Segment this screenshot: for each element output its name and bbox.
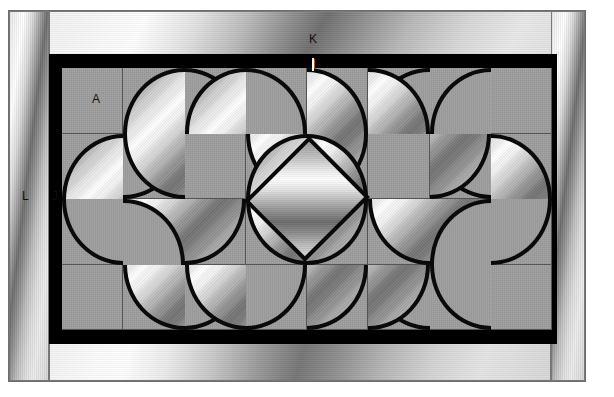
- tile: [185, 68, 246, 134]
- petal-lobe: [123, 68, 184, 134]
- tile: [368, 265, 429, 331]
- tile: [62, 199, 123, 265]
- tile: [307, 68, 368, 134]
- patent-figure: AIJKL: [0, 0, 614, 397]
- petal-lobe: [368, 265, 429, 331]
- tile: [368, 134, 429, 200]
- tile: [185, 134, 246, 200]
- petal-lobe: [307, 265, 368, 331]
- tile: [185, 265, 246, 331]
- tile: [491, 134, 552, 200]
- tile: [246, 265, 307, 331]
- tile: [185, 199, 246, 265]
- corner-notch: [491, 199, 552, 265]
- corner-notch: [123, 199, 184, 265]
- tile: [123, 265, 184, 331]
- reference-label-I: I: [312, 57, 316, 71]
- corner-notch: [430, 265, 491, 331]
- reference-label-K: K: [309, 32, 318, 46]
- reference-label-L: L: [22, 189, 29, 203]
- petal-lobe: [368, 68, 429, 134]
- petal-lobe: [430, 134, 491, 200]
- tile: [246, 68, 307, 134]
- tile: [123, 199, 184, 265]
- tile: [368, 199, 429, 265]
- corner-notch: [430, 199, 491, 265]
- corner-notch: [430, 68, 491, 134]
- tile: [368, 68, 429, 134]
- tile: [123, 68, 184, 134]
- tile: [62, 134, 123, 200]
- tile: [491, 265, 552, 331]
- tile: [430, 199, 491, 265]
- petal-lobe: [491, 134, 552, 200]
- tile: [123, 134, 184, 200]
- petal-lobe: [307, 68, 368, 134]
- tile: [307, 265, 368, 331]
- corner-notch: [62, 199, 123, 265]
- petal-lobe: [368, 199, 429, 265]
- reference-label-J: J: [52, 189, 59, 203]
- reference-label-A: A: [92, 92, 101, 106]
- petal-lobe: [185, 265, 246, 331]
- tile: [430, 265, 491, 331]
- tile: [491, 68, 552, 134]
- tile: [430, 134, 491, 200]
- petal-lobe: [123, 265, 184, 331]
- tile: [62, 265, 123, 331]
- frame-member-bottom: [49, 343, 551, 381]
- corner-notch: [246, 265, 307, 331]
- petal-lobe: [62, 134, 123, 200]
- petal-lobe: [185, 68, 246, 134]
- tile: [430, 68, 491, 134]
- corner-notch: [246, 68, 307, 134]
- petal-lobe: [185, 199, 246, 265]
- tile: [491, 199, 552, 265]
- petal-lobe: [123, 134, 184, 200]
